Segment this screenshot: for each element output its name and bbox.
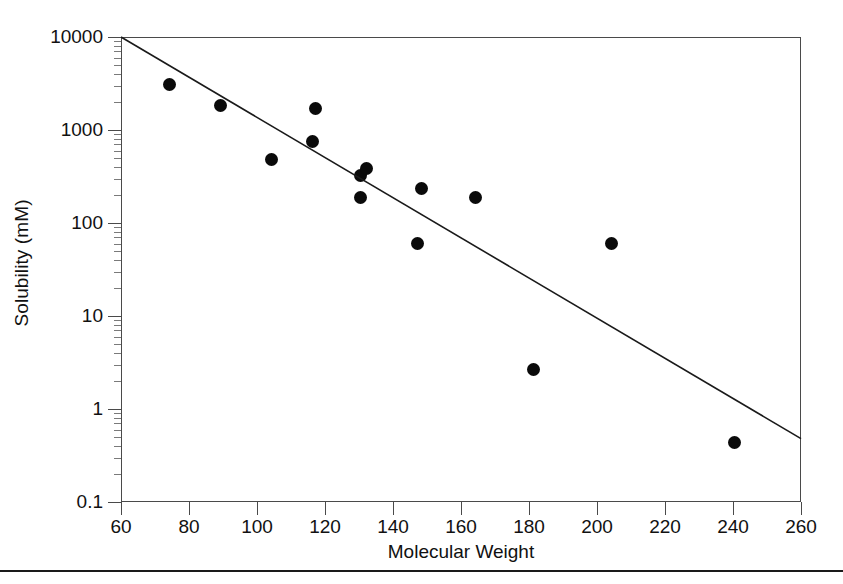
x-axis-tick (597, 502, 598, 515)
y-axis-minor-tick (114, 41, 121, 42)
y-axis-tick (108, 223, 121, 224)
y-axis-minor-tick (114, 58, 121, 59)
x-axis-tick (393, 502, 394, 515)
y-axis-minor-tick (114, 418, 121, 419)
y-axis-minor-tick (114, 325, 121, 326)
y-axis-minor-tick (114, 227, 121, 228)
y-axis-minor-tick (114, 288, 121, 289)
x-axis-tick (325, 502, 326, 515)
y-axis-minor-tick (114, 102, 121, 103)
y-axis-tick (108, 37, 121, 38)
x-axis-tick-label: 200 (562, 516, 632, 538)
x-axis-tick-label: 140 (358, 516, 428, 538)
y-axis-minor-tick (114, 344, 121, 345)
x-axis-tick (529, 502, 530, 515)
x-axis-tick-label: 260 (766, 516, 836, 538)
data-point (306, 135, 319, 148)
x-axis-tick (257, 502, 258, 515)
x-axis-tick (665, 502, 666, 515)
y-axis-minor-tick (114, 51, 121, 52)
y-axis-minor-tick (114, 413, 121, 414)
x-axis-tick (461, 502, 462, 515)
data-point (728, 436, 741, 449)
y-axis-minor-tick (114, 474, 121, 475)
y-axis-tick (108, 502, 121, 503)
y-axis-tick (108, 316, 121, 317)
y-axis-minor-tick (114, 151, 121, 152)
x-axis-tick (189, 502, 190, 515)
x-axis-tick-label: 60 (86, 516, 156, 538)
y-axis-minor-tick (114, 446, 121, 447)
data-point (354, 191, 367, 204)
y-axis-minor-tick (114, 260, 121, 261)
y-axis-tick (108, 130, 121, 131)
y-axis-minor-tick (114, 337, 121, 338)
data-point (214, 99, 227, 112)
y-axis-minor-tick (114, 320, 121, 321)
y-axis-minor-tick (114, 74, 121, 75)
y-axis-minor-tick (114, 167, 121, 168)
x-axis-tick-label: 120 (290, 516, 360, 538)
y-axis-minor-tick (114, 144, 121, 145)
plot-area (121, 37, 801, 502)
y-axis-minor-tick (114, 139, 121, 140)
y-axis-minor-tick (114, 134, 121, 135)
y-axis-minor-tick (114, 353, 121, 354)
y-axis-minor-tick (114, 330, 121, 331)
data-point (309, 102, 322, 115)
data-point (163, 78, 176, 91)
x-axis-tick-label: 80 (154, 516, 224, 538)
x-axis-title: Molecular Weight (121, 541, 801, 563)
y-axis-title: Solubility (mM) (11, 33, 33, 493)
y-axis-minor-tick (114, 65, 121, 66)
y-axis-minor-tick (114, 437, 121, 438)
y-axis-tick-label: 0.1 (3, 491, 103, 513)
y-axis-minor-tick (114, 237, 121, 238)
x-axis-tick-label: 160 (426, 516, 496, 538)
y-axis-tick (108, 409, 121, 410)
y-axis-minor-tick (114, 381, 121, 382)
x-axis-tick-label: 180 (494, 516, 564, 538)
y-axis-minor-tick (114, 232, 121, 233)
x-axis-tick-label: 240 (698, 516, 768, 538)
x-axis-tick-label: 220 (630, 516, 700, 538)
y-axis-minor-tick (114, 86, 121, 87)
data-point (360, 162, 373, 175)
y-axis-minor-tick (114, 423, 121, 424)
x-axis-tick (801, 502, 802, 515)
data-point (265, 153, 278, 166)
y-axis-minor-tick (114, 195, 121, 196)
y-axis-minor-tick (114, 430, 121, 431)
x-axis-tick-label: 100 (222, 516, 292, 538)
data-point (527, 363, 540, 376)
x-axis-tick (121, 502, 122, 515)
y-axis-minor-tick (114, 46, 121, 47)
data-point (469, 191, 482, 204)
data-point (605, 237, 618, 250)
x-axis-tick (733, 502, 734, 515)
figure-scatter-solubility-vs-molecular-weight: 0.1110100100010000 Solubility (mM) Molec… (0, 0, 843, 584)
caption-text (0, 573, 843, 584)
y-axis-minor-tick (114, 458, 121, 459)
y-axis-minor-tick (114, 158, 121, 159)
data-point (411, 237, 424, 250)
y-axis-minor-tick (114, 365, 121, 366)
caption-divider (0, 570, 843, 572)
y-axis-minor-tick (114, 244, 121, 245)
y-axis-minor-tick (114, 179, 121, 180)
y-axis-minor-tick (114, 272, 121, 273)
y-axis-minor-tick (114, 251, 121, 252)
data-point (415, 182, 428, 195)
